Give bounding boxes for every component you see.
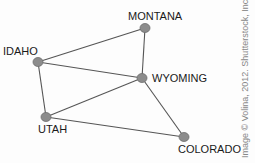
edge-idaho-wyoming: [38, 62, 142, 78]
label-colorado: COLORADO: [178, 143, 241, 155]
label-wyoming: WYOMING: [152, 72, 207, 84]
node-colorado: [179, 133, 189, 142]
label-utah: UTAH: [38, 123, 67, 135]
node-idaho: [33, 58, 43, 67]
edge-idaho-montana: [38, 28, 145, 62]
node-utah: [41, 113, 51, 122]
edge-wyoming-colorado: [142, 78, 184, 137]
edge-wyoming-utah: [46, 78, 142, 117]
label-montana: MONTANA: [128, 10, 183, 22]
edge-montana-wyoming: [142, 28, 145, 78]
node-montana: [140, 24, 150, 33]
graph-labels: IDAHOMONTANAWYOMINGUTAHCOLORADO: [3, 10, 241, 155]
state-adjacency-graph: IDAHOMONTANAWYOMINGUTAHCOLORADO Image © …: [0, 0, 255, 163]
edge-idaho-utah: [38, 62, 46, 117]
node-wyoming: [137, 74, 147, 83]
graph-canvas: IDAHOMONTANAWYOMINGUTAHCOLORADO Image © …: [0, 0, 255, 163]
image-credit: Image © Volina, 2012. Shutterstock, Inc.: [240, 0, 250, 158]
label-idaho: IDAHO: [3, 45, 38, 57]
